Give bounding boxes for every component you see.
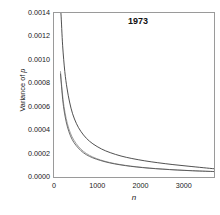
x-axis-tick-label: 2000 (120, 181, 160, 190)
x-axis-tick-label: 1000 (77, 181, 117, 190)
chart-figure: Variance of p 0.00000.00020.00040.00060.… (0, 0, 220, 215)
x-axis-label: n (53, 193, 215, 202)
x-axis-tick-labels: 0100020003000 (0, 0, 220, 215)
x-axis-tick-label: 0 (34, 181, 74, 190)
x-axis-tick-label: 3000 (164, 181, 204, 190)
